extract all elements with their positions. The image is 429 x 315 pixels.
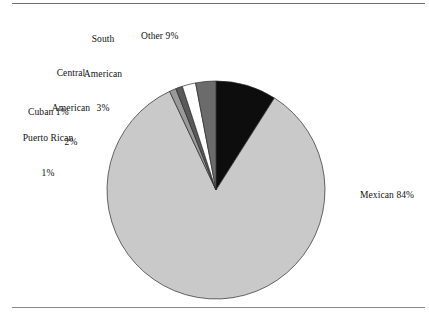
slice-label-puerto-rican-value: 1% xyxy=(12,168,84,180)
slice-label-puerto-rican: Puerto Rican 1% xyxy=(12,110,84,202)
pie-slice-group xyxy=(107,81,325,299)
slice-label-mexican-text: Mexican 84% xyxy=(360,190,414,202)
slice-label-other: Other 9% xyxy=(141,8,178,66)
slice-label-other-text: Other 9% xyxy=(141,31,178,43)
slice-label-central-american-line1: Central xyxy=(40,68,102,80)
slice-label-puerto-rican-line1: Puerto Rican xyxy=(12,133,84,145)
slice-label-mexican: Mexican 84% xyxy=(360,167,414,225)
slice-label-south-american-line1: South xyxy=(72,34,134,46)
pie-chart-figure: Other 9% South American 3% Central Ameri… xyxy=(0,0,429,315)
